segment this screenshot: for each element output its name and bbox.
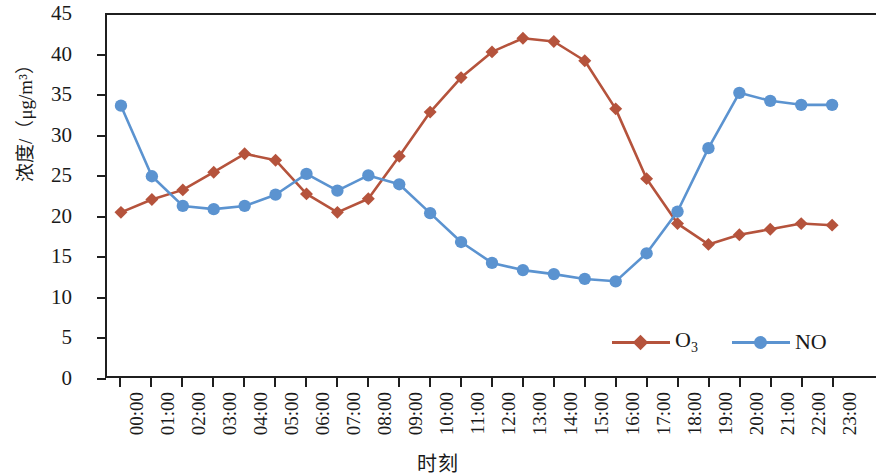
y-tick-label: 35: [30, 84, 72, 105]
data-point-marker: [176, 183, 189, 196]
x-tick-mark: [677, 378, 679, 387]
data-point-marker: [826, 99, 838, 111]
data-point-marker: [578, 54, 591, 67]
x-tick-mark: [584, 378, 586, 387]
data-point-marker: [115, 100, 127, 112]
x-tick-mark: [491, 378, 493, 387]
data-point-marker: [671, 205, 683, 217]
data-point-marker: [300, 168, 312, 180]
data-point-marker: [733, 87, 745, 99]
y-tick-label: 30: [30, 124, 72, 145]
y-tick-label: 5: [30, 327, 72, 348]
data-point-marker: [486, 257, 498, 269]
data-point-marker: [331, 185, 343, 197]
legend-label-subscript: 3: [691, 340, 698, 355]
plot-area: [105, 13, 876, 378]
x-tick-mark: [770, 378, 772, 387]
data-point-marker: [146, 170, 158, 182]
x-axis-title: 时刻: [0, 448, 876, 473]
data-point-marker: [547, 35, 560, 48]
data-point-marker: [548, 268, 560, 280]
x-tick-mark: [522, 378, 524, 387]
legend-item-o3: O3: [612, 329, 698, 355]
data-point-marker: [733, 228, 746, 241]
data-point-marker: [795, 217, 808, 230]
legend-label: NO: [795, 331, 827, 353]
y-tick-label: 10: [30, 286, 72, 307]
y-tick-label: 15: [30, 246, 72, 267]
legend-item-no: NO: [732, 331, 827, 353]
data-point-marker: [145, 193, 158, 206]
x-tick-mark: [708, 378, 710, 387]
x-tick-mark: [336, 378, 338, 387]
x-tick-mark: [553, 378, 555, 387]
series-line: [121, 93, 832, 282]
x-tick-mark: [119, 378, 121, 387]
data-point-marker: [362, 169, 374, 181]
series-no: [115, 87, 839, 288]
data-point-marker: [424, 207, 436, 219]
data-point-marker: [208, 203, 220, 215]
data-point-marker: [238, 147, 251, 160]
data-point-marker: [764, 223, 777, 236]
data-point-marker: [516, 32, 529, 45]
y-tick-mark: [97, 378, 106, 380]
y-tick-label: 40: [30, 43, 72, 64]
x-tick-mark: [646, 378, 648, 387]
x-tick-mark: [150, 378, 152, 387]
x-tick-mark: [243, 378, 245, 387]
concentration-time-line-chart: 浓度/（μg/m³） 051015202530354045 00:0001:00…: [0, 0, 876, 473]
y-tick-label: 45: [30, 3, 72, 24]
x-tick-mark: [739, 378, 741, 387]
y-tick-label: 0: [30, 368, 72, 389]
data-point-marker: [177, 200, 189, 212]
legend-label: O3: [675, 329, 698, 355]
x-tick-mark: [398, 378, 400, 387]
x-tick-mark: [367, 378, 369, 387]
data-point-marker: [579, 273, 591, 285]
chart-legend: O3NO: [612, 329, 827, 355]
x-tick-mark: [460, 378, 462, 387]
x-tick-mark: [429, 378, 431, 387]
data-point-marker: [393, 178, 405, 190]
x-tick-mark: [832, 378, 834, 387]
series-line: [121, 38, 832, 244]
x-tick-mark: [305, 378, 307, 387]
data-point-marker: [609, 102, 622, 115]
series-o3: [114, 32, 838, 251]
data-point-marker: [207, 166, 220, 179]
data-point-marker: [826, 219, 839, 232]
x-tick-mark: [181, 378, 183, 387]
legend-swatch-icon: [732, 335, 790, 349]
data-point-marker: [609, 275, 621, 287]
x-tick-mark: [274, 378, 276, 387]
legend-swatch-icon: [612, 335, 670, 349]
data-point-marker: [795, 99, 807, 111]
data-point-marker: [702, 142, 714, 154]
y-tick-label: 20: [30, 205, 72, 226]
data-point-marker: [640, 247, 652, 259]
data-point-marker: [331, 206, 344, 219]
y-tick-label: 25: [30, 165, 72, 186]
data-point-marker: [764, 95, 776, 107]
x-tick-mark: [801, 378, 803, 387]
data-point-marker: [114, 206, 127, 219]
data-point-marker: [455, 236, 467, 248]
x-tick-mark: [615, 378, 617, 387]
x-tick-mark: [212, 378, 214, 387]
data-point-marker: [517, 264, 529, 276]
series-canvas: [107, 15, 876, 376]
y-axis-tick-labels: 051015202530354045: [30, 0, 72, 390]
data-point-marker: [238, 200, 250, 212]
data-point-marker: [269, 189, 281, 201]
